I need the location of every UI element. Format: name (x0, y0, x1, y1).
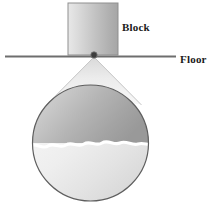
floor-label: Floor (180, 54, 207, 65)
physics-diagram-block-on-floor: Block Floor (0, 0, 213, 207)
contact-point (91, 52, 97, 58)
block (68, 3, 118, 55)
diagram-canvas (0, 0, 213, 207)
block-label: Block (122, 22, 150, 33)
